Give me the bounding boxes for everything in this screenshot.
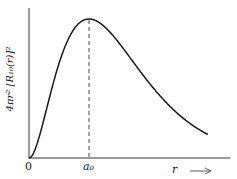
y-axis-label: 4πr² [R₁₀(r)]² bbox=[4, 29, 18, 129]
chart-canvas bbox=[0, 0, 237, 179]
radial-probability-curve bbox=[29, 19, 208, 158]
origin-label: 0 bbox=[25, 160, 32, 173]
a0-tick-label: a₀ bbox=[83, 160, 94, 173]
x-axis-label: r bbox=[172, 163, 177, 176]
